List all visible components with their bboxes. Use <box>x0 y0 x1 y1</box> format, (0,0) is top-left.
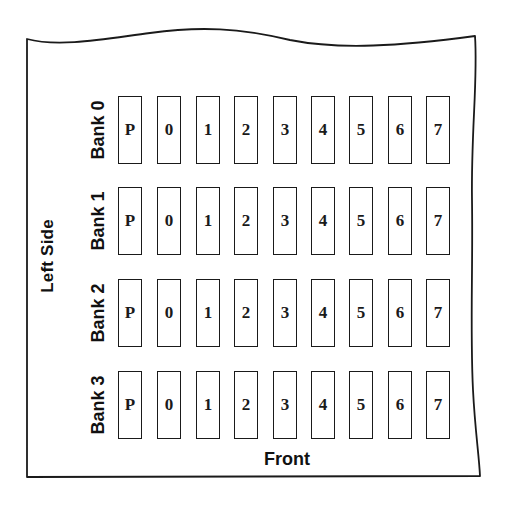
chip-bank2-5: 5 <box>349 279 373 347</box>
chip-bank2-2: 2 <box>234 279 258 347</box>
chip-bank3-6: 6 <box>388 371 412 439</box>
chip-label: P <box>125 120 135 140</box>
chip-bank0-5: 5 <box>349 96 373 164</box>
chip-bank1-p: P <box>118 187 142 255</box>
chip-label: 4 <box>319 395 328 415</box>
chip-label: 0 <box>165 395 174 415</box>
chip-label: 1 <box>204 395 213 415</box>
chip-label: 5 <box>357 211 366 231</box>
chip-label: 7 <box>434 120 443 140</box>
chip-label: 1 <box>204 303 213 323</box>
bank-2-label: Bank 2 <box>88 283 109 342</box>
chip-label: P <box>125 395 135 415</box>
chip-bank0-3: 3 <box>273 96 297 164</box>
chip-label: 2 <box>242 395 251 415</box>
chip-label: 4 <box>319 303 328 323</box>
chip-label: 5 <box>357 303 366 323</box>
chip-label: 3 <box>281 211 290 231</box>
chip-label: 6 <box>396 395 405 415</box>
chip-bank2-1: 1 <box>196 279 220 347</box>
chip-bank3-5: 5 <box>349 371 373 439</box>
chip-label: 4 <box>319 120 328 140</box>
chip-label: 5 <box>357 395 366 415</box>
chip-label: 7 <box>434 303 443 323</box>
chip-bank2-6: 6 <box>388 279 412 347</box>
chip-label: 1 <box>204 120 213 140</box>
chip-label: 0 <box>165 211 174 231</box>
chip-bank1-4: 4 <box>311 187 335 255</box>
bank-1-label: Bank 1 <box>88 191 109 250</box>
chip-bank3-2: 2 <box>234 371 258 439</box>
chip-label: 0 <box>165 303 174 323</box>
chip-label: 3 <box>281 120 290 140</box>
chip-label: 2 <box>242 120 251 140</box>
chip-bank2-4: 4 <box>311 279 335 347</box>
chip-bank3-7: 7 <box>426 371 450 439</box>
chip-label: 5 <box>357 120 366 140</box>
chip-label: 6 <box>396 120 405 140</box>
chip-label: 2 <box>242 211 251 231</box>
chip-bank1-0: 0 <box>157 187 181 255</box>
chip-bank0-p: P <box>118 96 142 164</box>
chip-bank0-0: 0 <box>157 96 181 164</box>
chip-label: 3 <box>281 303 290 323</box>
chip-label: 6 <box>396 211 405 231</box>
left-side-label: Left Side <box>38 219 58 293</box>
bank-3-label: Bank 3 <box>88 375 109 434</box>
chip-bank2-3: 3 <box>273 279 297 347</box>
chip-label: 3 <box>281 395 290 415</box>
chip-bank1-1: 1 <box>196 187 220 255</box>
chip-label: 6 <box>396 303 405 323</box>
chip-bank1-5: 5 <box>349 187 373 255</box>
chip-label: 7 <box>434 211 443 231</box>
chip-bank3-p: P <box>118 371 142 439</box>
chip-bank2-7: 7 <box>426 279 450 347</box>
chip-bank0-7: 7 <box>426 96 450 164</box>
chip-label: 2 <box>242 303 251 323</box>
chip-bank0-1: 1 <box>196 96 220 164</box>
chip-label: 0 <box>165 120 174 140</box>
chip-label: 4 <box>319 211 328 231</box>
chip-bank3-4: 4 <box>311 371 335 439</box>
chip-bank2-0: 0 <box>157 279 181 347</box>
chip-label: P <box>125 211 135 231</box>
chip-bank2-p: P <box>118 279 142 347</box>
front-label: Front <box>264 449 310 470</box>
chip-bank0-2: 2 <box>234 96 258 164</box>
chip-bank0-6: 6 <box>388 96 412 164</box>
chip-bank0-4: 4 <box>311 96 335 164</box>
chip-label: 7 <box>434 395 443 415</box>
chip-bank3-0: 0 <box>157 371 181 439</box>
chip-bank1-2: 2 <box>234 187 258 255</box>
bank-0-label: Bank 0 <box>88 100 109 159</box>
chip-bank3-3: 3 <box>273 371 297 439</box>
chip-bank1-7: 7 <box>426 187 450 255</box>
chip-label: P <box>125 303 135 323</box>
chip-label: 1 <box>204 211 213 231</box>
chip-bank1-3: 3 <box>273 187 297 255</box>
chip-bank1-6: 6 <box>388 187 412 255</box>
chip-bank3-1: 1 <box>196 371 220 439</box>
